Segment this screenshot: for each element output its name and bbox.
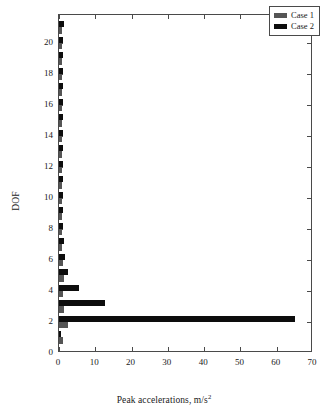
- y-axis-tick-label: 2: [32, 316, 53, 326]
- bar-case-1-dof-18: [59, 74, 62, 80]
- x-axis-title-superscript: 2: [208, 393, 211, 400]
- chart-legend: Case 1 Case 2: [269, 6, 320, 36]
- x-axis-tick-top: [204, 15, 205, 19]
- chart-figure: Peak accelerations, m/s2 DOF Case 1 Case…: [0, 0, 328, 409]
- x-axis-title-text: Peak accelerations, m/s: [117, 395, 208, 405]
- bar-case-1-dof-17: [59, 89, 62, 95]
- legend-label-case-2: Case 2: [291, 21, 314, 32]
- bar-case-1-dof-13: [59, 151, 62, 157]
- x-axis-tick-label: 30: [162, 357, 171, 367]
- y-axis-tick-right: [307, 291, 311, 292]
- x-axis-title: Peak accelerations, m/s2: [0, 395, 328, 405]
- x-axis-tick-label: 70: [308, 357, 317, 367]
- x-axis-tick-label: 20: [126, 357, 135, 367]
- y-axis-tick-label: 10: [32, 192, 53, 202]
- x-axis-tick-top: [95, 15, 96, 19]
- plot-area: [58, 14, 312, 352]
- y-axis-title: DOF: [11, 171, 21, 231]
- y-axis-tick-label: 16: [32, 99, 53, 109]
- y-axis-tick-right: [307, 167, 311, 168]
- x-axis-tick-label: 50: [235, 357, 244, 367]
- bar-case-1-dof-21: [59, 27, 62, 33]
- legend-swatch-case-2: [274, 24, 287, 29]
- bar-case-2-dof-3: [59, 300, 105, 306]
- bar-case-1-dof-19: [59, 58, 62, 64]
- bar-case-1-dof-11: [59, 182, 62, 188]
- x-axis-tick-top: [132, 15, 133, 19]
- y-axis-tick-label: 12: [32, 161, 53, 171]
- x-axis-tick: [95, 347, 96, 351]
- bar-case-1-dof-12: [59, 167, 62, 173]
- y-axis-tick-label: 6: [32, 254, 53, 264]
- y-axis-tick-right: [307, 198, 311, 199]
- bar-case-1-dof-2: [59, 322, 68, 328]
- bar-case-1-dof-14: [59, 136, 62, 142]
- bar-case-1-dof-3: [59, 306, 64, 312]
- x-axis-tick-label: 0: [56, 357, 61, 367]
- x-axis-tick-top: [59, 15, 60, 19]
- x-axis-tick: [204, 347, 205, 351]
- y-axis-tick-right: [307, 322, 311, 323]
- x-axis-tick-label: 60: [271, 357, 280, 367]
- y-axis-tick-label: 14: [32, 130, 53, 140]
- x-axis-tick: [240, 347, 241, 351]
- x-axis-tick-top: [168, 15, 169, 19]
- x-axis-tick-top: [240, 15, 241, 19]
- x-axis-tick: [277, 347, 278, 351]
- bar-case-1-dof-8: [59, 229, 62, 235]
- bar-case-1-dof-10: [59, 198, 62, 204]
- bar-case-1-dof-20: [59, 43, 62, 49]
- y-axis-tick-right: [307, 229, 311, 230]
- bar-case-1-dof-7: [59, 244, 62, 250]
- bar-case-1-dof-9: [59, 213, 62, 219]
- bar-case-1-dof-1: [59, 337, 63, 343]
- y-axis-tick-right: [307, 136, 311, 137]
- legend-item-case-1[interactable]: Case 1: [274, 10, 314, 21]
- bar-case-1-dof-15: [59, 120, 62, 126]
- y-axis-tick-label: 0: [32, 347, 53, 357]
- bar-case-1-dof-5: [59, 275, 64, 281]
- y-axis-tick-right: [307, 105, 311, 106]
- legend-label-case-1: Case 1: [291, 10, 314, 21]
- bar-case-1-dof-6: [59, 260, 63, 266]
- y-axis-tick-label: 8: [32, 223, 53, 233]
- legend-swatch-case-1: [274, 13, 287, 18]
- y-axis-tick-label: 18: [32, 68, 53, 78]
- legend-item-case-2[interactable]: Case 2: [274, 21, 314, 32]
- x-axis-tick: [168, 347, 169, 351]
- x-axis-tick-label: 10: [90, 357, 99, 367]
- y-axis-tick-right: [307, 43, 311, 44]
- x-axis-tick: [59, 347, 60, 351]
- bar-case-1-dof-16: [59, 105, 62, 111]
- bar-case-2-dof-2: [59, 316, 295, 322]
- y-axis-tick-right: [307, 260, 311, 261]
- y-axis-tick-label: 4: [32, 285, 53, 295]
- y-axis-tick-right: [307, 74, 311, 75]
- bar-case-1-dof-4: [59, 291, 63, 297]
- x-axis-tick: [132, 347, 133, 351]
- x-axis-tick-label: 40: [199, 357, 208, 367]
- y-axis-tick-label: 20: [32, 37, 53, 47]
